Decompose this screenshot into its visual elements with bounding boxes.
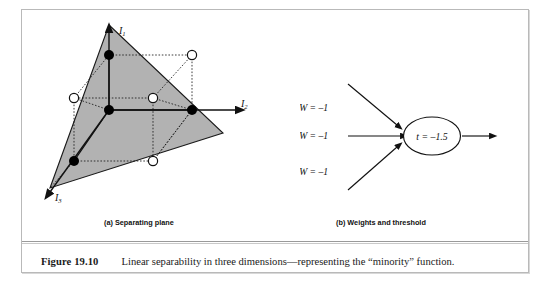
- threshold-label: t = –1.5: [416, 131, 447, 142]
- input-arrows: [348, 84, 401, 190]
- vertex-origin: [104, 105, 114, 115]
- figure-page: I1 I2 I3: [0, 0, 551, 283]
- caption-divider: [22, 241, 528, 244]
- axis-i2-label: I2: [240, 98, 248, 110]
- vertex-i1-i2: [187, 50, 196, 59]
- vertex-i2-i3: [148, 156, 157, 165]
- figure-number: Figure 19.10: [41, 256, 99, 267]
- vertex-i1-unit: [104, 50, 114, 60]
- vertex-i2-unit: [187, 105, 197, 115]
- weight-label-1: W = –1: [300, 102, 328, 113]
- weights-threshold-diagram: W = –1 W = –1 W = –1 t = –1.5: [300, 78, 520, 208]
- vertex-i3-unit: [69, 156, 79, 166]
- weight-label-2: W = –1: [300, 130, 328, 141]
- axis-i3-label: I3: [54, 192, 62, 204]
- axis-i1-label: I1: [118, 25, 126, 37]
- figure-caption: Figure 19.10 Linear separability in thre…: [22, 249, 528, 273]
- input-arrow-3: [348, 147, 397, 190]
- panel-b-caption: (b) Weights and threshold: [336, 218, 426, 227]
- panel-a-caption: (a) Separating plane: [104, 218, 174, 227]
- vertex-i1-i3: [69, 93, 78, 102]
- separating-plane-diagram: I1 I2 I3: [24, 12, 274, 217]
- weight-label-3: W = –1: [300, 166, 328, 177]
- input-arrow-1: [348, 84, 397, 125]
- vertex-i1-i2-i3: [148, 93, 157, 102]
- figure-caption-text: Linear separability in three dimensions—…: [122, 256, 455, 267]
